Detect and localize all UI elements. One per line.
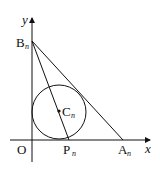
line-BP	[32, 41, 69, 140]
point-B-sub: n	[25, 42, 29, 51]
x-axis-label: x	[144, 141, 151, 156]
geometry-diagram: y x O B n C n P n A n	[0, 0, 160, 169]
point-A-sub: n	[127, 149, 131, 158]
point-P-label: P	[63, 142, 70, 157]
y-axis-label: y	[20, 12, 28, 27]
point-C-sub: n	[71, 111, 75, 120]
origin-label: O	[17, 142, 26, 157]
point-P-sub: n	[72, 149, 76, 158]
point-C-label: C	[62, 104, 71, 119]
point-B-label: B	[16, 35, 25, 50]
center-point	[57, 109, 60, 112]
line-BA	[32, 41, 123, 140]
